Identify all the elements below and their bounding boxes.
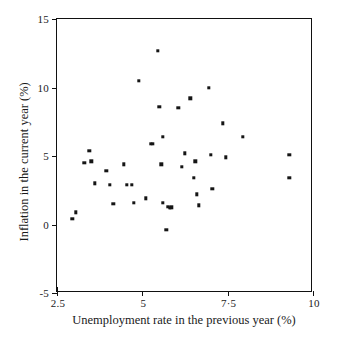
data-point [137, 79, 140, 82]
clipped-top-caption [60, 0, 280, 5]
data-point [71, 217, 74, 220]
data-point [287, 176, 290, 179]
data-point [161, 135, 164, 138]
data-point [211, 187, 214, 190]
y-tick-label: -5 [39, 288, 49, 299]
data-point [151, 142, 154, 145]
data-point [122, 163, 125, 166]
y-tick-label: 0 [43, 220, 49, 231]
data-point [130, 183, 133, 186]
data-point [195, 193, 198, 196]
y-tick: 15 [52, 19, 57, 20]
data-point [125, 183, 128, 186]
data-point [241, 135, 244, 138]
data-point [158, 105, 161, 108]
plot-frame: -5051015 2.557·510 [56, 18, 312, 292]
data-point [105, 169, 108, 172]
data-point [112, 202, 115, 205]
y-tick: 5 [52, 156, 57, 157]
data-point [170, 206, 173, 209]
data-point [165, 228, 168, 231]
data-point [180, 165, 183, 168]
data-point [188, 97, 191, 100]
y-tick: 10 [52, 88, 57, 89]
scatter-plot-figure: -5051015 2.557·510 Unemployment rate in … [0, 0, 344, 342]
y-tick: 0 [52, 225, 57, 226]
data-point [224, 156, 227, 159]
x-tick: 7·5 [228, 291, 229, 296]
data-point [221, 121, 224, 124]
x-tick-label: 2.5 [51, 298, 65, 309]
data-point [144, 197, 147, 200]
data-point [88, 149, 91, 152]
data-point [74, 210, 77, 213]
x-tick-label: 7·5 [221, 298, 236, 309]
data-point [197, 204, 200, 207]
x-tick: 2.5 [57, 287, 58, 296]
y-tick-label: 10 [38, 83, 49, 94]
y-tick-label: 5 [43, 151, 49, 162]
x-tick: 5 [142, 291, 143, 296]
data-point [209, 153, 212, 156]
y-tick-label: 15 [38, 14, 49, 25]
data-point [83, 161, 86, 164]
data-point [93, 182, 96, 185]
data-point [287, 153, 290, 156]
x-tick-label: 5 [140, 298, 146, 309]
data-point [161, 201, 164, 204]
data-point [183, 152, 186, 155]
data-point [132, 201, 135, 204]
x-axis-title: Unemployment rate in the previous year (… [56, 314, 312, 328]
y-axis-title: Inflation in the current year (%) [18, 52, 32, 272]
data-point [194, 160, 197, 163]
data-point [207, 86, 210, 89]
x-tick-label: 10 [308, 298, 319, 309]
data-point [192, 176, 195, 179]
data-point [156, 49, 159, 52]
data-point [176, 106, 179, 109]
data-point [159, 163, 162, 166]
x-tick: 10 [313, 291, 314, 296]
plot-area [57, 19, 311, 291]
data-point [89, 160, 92, 163]
data-point [108, 183, 111, 186]
